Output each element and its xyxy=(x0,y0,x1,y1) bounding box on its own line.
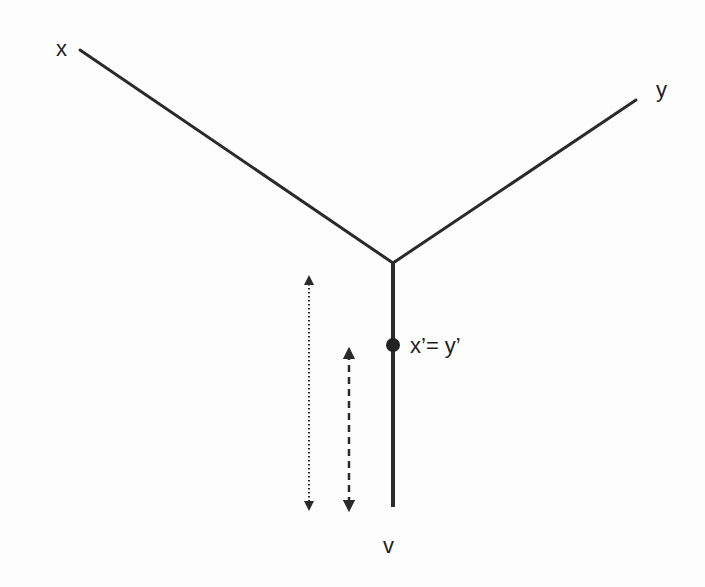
label-x-prime-equals-y-prime: x’= y’ xyxy=(410,333,461,358)
label-y: y xyxy=(656,77,667,102)
label-x: x xyxy=(56,36,67,61)
label-v: v xyxy=(383,533,394,558)
edge-y-junction xyxy=(393,100,636,263)
point-x-prime-y-prime xyxy=(386,338,400,352)
diagram-canvas: x y v x’= y’ xyxy=(0,0,705,587)
edge-x-junction xyxy=(80,50,393,263)
